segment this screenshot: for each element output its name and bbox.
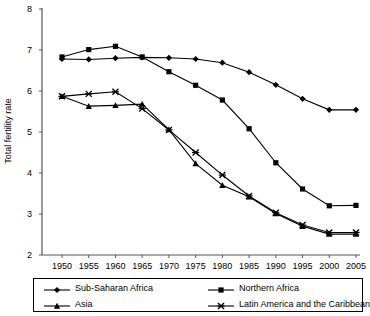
chart-legend: Sub-Saharan AfricaNorthern AfricaAsiaLat… [33,278,363,312]
x-axis-tick-label: 1970 [159,261,179,272]
data-point [86,56,92,62]
y-axis-tick-label: 3 [16,210,32,219]
x-axis-tick-label: 2000 [319,261,339,272]
legend-marker [218,287,223,292]
y-axis-tick-label: 5 [16,128,32,137]
plot-area [36,4,364,260]
data-point [192,150,199,156]
x-marker-icon [206,298,236,310]
series-line [62,46,356,205]
data-point [300,186,305,191]
y-axis-tick-label: 4 [16,169,32,178]
x-axis-tick-label: 1960 [105,261,125,272]
series-asia [59,93,359,237]
data-point [327,203,332,208]
data-point [193,83,198,88]
data-point [219,172,226,178]
legend-marker [217,303,224,309]
x-axis-tick-label: 1975 [186,261,206,272]
plot-svg [36,4,364,260]
series-line [62,57,356,109]
data-point [140,54,145,59]
data-point [220,97,225,102]
fertility-rate-line-chart: Total fertility rate 8765432 19501955196… [0,0,370,316]
data-point [193,56,199,62]
data-point [219,60,225,66]
diamond-marker-icon [42,282,72,294]
data-point [353,107,359,113]
y-axis-tick-label: 6 [16,87,32,96]
data-point [246,126,251,131]
legend-entry[interactable]: Sub-Saharan Africa [42,280,153,296]
data-point [59,54,64,59]
data-point [112,55,118,61]
legend-entry[interactable]: Latin America and the Caribbean [206,296,370,312]
data-point [166,69,171,74]
data-point [246,69,252,75]
series-northern-africa [59,44,358,209]
series-latin-america-and-the-caribbean [58,89,359,236]
legend-label: Asia [75,299,93,309]
legend-entry[interactable]: Asia [42,296,93,312]
x-axis-tick-label: 1950 [52,261,72,272]
x-axis-tick-label: 1995 [293,261,313,272]
legend-entry[interactable]: Northern Africa [206,280,299,296]
triangle-marker-icon [42,298,72,310]
legend-label: Northern Africa [239,283,299,293]
x-axis-tick-label: 1990 [266,261,286,272]
x-axis-tick-labels: 1950195519601965197019751980198519901995… [36,261,364,275]
series-sub-saharan-africa [59,54,359,113]
y-axis-title: Total fertility rate [0,0,16,262]
data-point [166,55,172,61]
legend-label: Latin America and the Caribbean [239,299,370,309]
x-axis-tick-label: 1965 [132,261,152,272]
x-axis-tick-label: 1980 [212,261,232,272]
data-point [273,160,278,165]
square-marker-icon [206,282,236,294]
series-line [62,92,356,233]
y-axis-tick-label: 7 [16,46,32,55]
data-point [353,203,358,208]
y-axis-tick-label: 8 [16,5,32,14]
data-point [112,89,119,95]
data-point [273,82,279,88]
legend-marker [54,287,60,293]
data-point [326,107,332,113]
series-line [62,96,356,234]
x-axis-tick-label: 1985 [239,261,259,272]
y-axis-tick-labels: 8765432 [16,0,32,262]
data-point [85,91,92,97]
data-point [86,47,91,52]
x-axis-tick-label: 1955 [79,261,99,272]
legend-label: Sub-Saharan Africa [75,283,153,293]
data-point [299,96,305,102]
y-axis-tick-label: 2 [16,251,32,260]
y-axis-title-text: Total fertility rate [3,98,13,164]
x-axis-tick-label: 2005 [346,261,366,272]
data-point [113,44,118,49]
